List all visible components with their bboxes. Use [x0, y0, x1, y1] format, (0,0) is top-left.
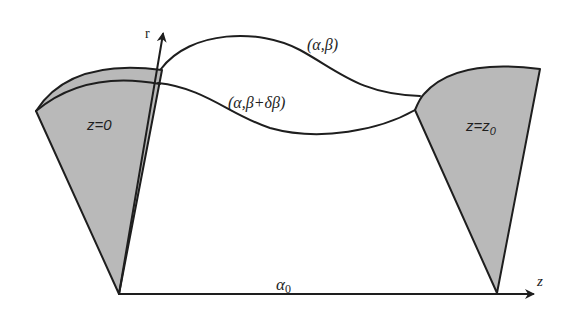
base-alpha-label: α0	[276, 275, 291, 296]
left-cone: z=0	[36, 68, 162, 294]
z-axis-label: z	[536, 273, 543, 289]
upper-curve-label: (α,β)	[307, 36, 338, 54]
r-axis-label: r	[145, 26, 150, 41]
lower-curve-label: (α,β+δβ)	[228, 94, 285, 112]
left-cone-body	[36, 68, 162, 294]
base-alpha-subscript: 0	[285, 282, 291, 296]
left-cone-label: z=0	[86, 116, 112, 133]
right-cone-label-subscript: 0	[490, 125, 497, 137]
right-cone: z=z0	[415, 66, 540, 293]
diagram-figure: z=0 z=z0 (α,β) (α,β+δβ) r z α0	[0, 0, 573, 316]
upper-curve	[161, 36, 420, 96]
right-cone-label-main: z=z	[465, 117, 490, 134]
right-cone-body	[415, 66, 540, 293]
